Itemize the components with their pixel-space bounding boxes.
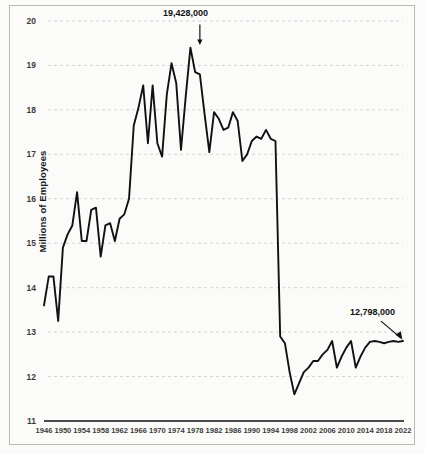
y-tick-label: 18 [18,105,36,115]
y-tick-label: 11 [18,416,36,426]
peak-value-annotation: 19,428,000 [163,8,208,18]
y-tick-label: 12 [18,372,36,382]
gridlines-group [48,21,403,377]
y-tick-label: 16 [18,194,36,204]
employment-line-chart: Millions of Employees 201918171615141312… [0,0,425,454]
y-tick-label: 13 [18,327,36,337]
y-axis-title: Millions of Employees [37,132,48,272]
y-tick-label: 17 [18,149,36,159]
data-series-group [44,48,403,395]
annotation-arrows-group [197,24,402,339]
y-tick-label: 15 [18,238,36,248]
x-tick-label: 2022 [389,426,417,435]
y-tick-label: 14 [18,283,36,293]
y-tick-label: 19 [18,60,36,70]
chart-plot-area [0,0,425,454]
end-value-annotation: 12,798,000 [350,307,395,317]
y-tick-label: 20 [18,16,36,26]
